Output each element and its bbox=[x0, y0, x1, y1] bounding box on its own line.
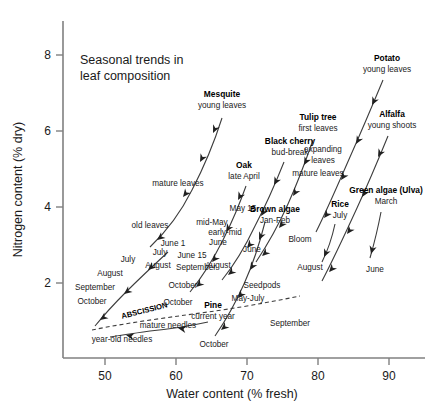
species-name-label: Rice bbox=[331, 199, 349, 209]
series-annotation-label: August bbox=[97, 269, 123, 278]
species-name-label: Black cherry bbox=[265, 136, 316, 146]
arrow-head-icon bbox=[353, 135, 363, 146]
series-annotation-label: October bbox=[199, 340, 228, 349]
species-stage-label: July bbox=[333, 211, 348, 220]
y-tick-label: 2 bbox=[44, 276, 51, 290]
series-annotation-label: early-mid bbox=[208, 228, 242, 237]
species-name-label: Green algae (Ulva) bbox=[349, 185, 423, 195]
species-stage-label: March bbox=[375, 197, 398, 206]
series-annotation-label: October bbox=[163, 298, 192, 307]
series-annotation-label: September bbox=[270, 319, 310, 328]
arrow-head-icon bbox=[368, 245, 377, 255]
x-axis-title: Water content (% fresh) bbox=[166, 387, 298, 401]
series-annotation-label: June bbox=[243, 245, 261, 254]
arrow-head-icon bbox=[375, 148, 385, 158]
abscission-label: ABSCISSION bbox=[120, 300, 168, 320]
y-tick-label: 4 bbox=[44, 200, 51, 214]
series-curve bbox=[322, 224, 335, 262]
series-annotation-label: June bbox=[366, 265, 384, 274]
x-tick-label: 90 bbox=[382, 369, 396, 383]
series-annotation-label: June bbox=[209, 238, 227, 247]
series-annotation-label: May-July bbox=[232, 294, 266, 303]
arrow-head-icon bbox=[271, 176, 281, 186]
arrow-head-icon bbox=[369, 96, 379, 106]
series-annotation-label: August bbox=[145, 261, 171, 270]
x-tick-label: 60 bbox=[169, 369, 183, 383]
series-annotation-label: June 15 bbox=[177, 251, 207, 260]
chart-title-line-2: leaf composition bbox=[80, 69, 170, 83]
arrow-head-icon bbox=[344, 225, 355, 236]
species-name-label: Pine bbox=[204, 300, 222, 310]
series-annotation-label: July bbox=[121, 255, 136, 264]
arrow-head-icon bbox=[301, 156, 311, 166]
species-name-label: Alfalfa bbox=[379, 109, 405, 119]
species-stage-label: young shoots bbox=[368, 121, 417, 130]
species-stage-label: bud-break bbox=[272, 148, 310, 157]
series-annotation-label: June 1 bbox=[161, 239, 186, 248]
series-annotation-label: Bloom bbox=[288, 235, 311, 244]
series-annotation-label: September bbox=[75, 283, 115, 292]
series-annotation-label: year-old needles bbox=[92, 335, 153, 344]
series-annotation-label: mid-May bbox=[196, 218, 228, 227]
species-stage-label: young leaves bbox=[198, 101, 246, 110]
species-stage-label: Jan-Feb bbox=[260, 216, 290, 225]
species-name-label: Oak bbox=[236, 160, 252, 170]
species-stage-label: young leaves bbox=[363, 65, 411, 74]
x-tick-label: 50 bbox=[98, 369, 112, 383]
x-tick-label: 70 bbox=[240, 369, 254, 383]
species-stage-label: late April bbox=[228, 172, 260, 181]
series-annotation-label: mature leaves bbox=[152, 179, 203, 188]
series-annotation-label: October bbox=[168, 281, 197, 290]
species-stage-label: first leaves bbox=[298, 124, 337, 133]
arrow-head-icon bbox=[180, 188, 191, 199]
series-annotation-label: mature leaves bbox=[292, 169, 343, 178]
species-name-label: Mesquite bbox=[204, 89, 241, 99]
y-tick-label: 6 bbox=[44, 124, 51, 138]
series-annotation-label: leaves bbox=[311, 156, 335, 165]
species-name-label: Tulip tree bbox=[299, 112, 336, 122]
series-annotation-label: old leaves bbox=[132, 221, 169, 230]
chart-figure: 24685060708090 mature leavesold leavesmi… bbox=[0, 0, 444, 417]
species-name-label: Brown algae bbox=[250, 204, 300, 214]
series-annotation-label: July bbox=[153, 248, 168, 257]
seasonal-trends-scatter-plot: 24685060708090 mature leavesold leavesmi… bbox=[0, 0, 444, 417]
series-annotation-label: October bbox=[77, 297, 106, 306]
series-labels: Mesquiteyoung leavesOaklate AprilBlack c… bbox=[191, 53, 423, 321]
y-tick-label: 8 bbox=[44, 48, 51, 62]
arrow-head-icon bbox=[321, 248, 331, 258]
series-annotation-label: August bbox=[297, 263, 323, 272]
series-annotation-label: August bbox=[205, 261, 231, 270]
arrow-head-icon bbox=[256, 231, 266, 241]
series-annotation-label: mature needles bbox=[140, 321, 196, 330]
chart-title-line-1: Seasonal trends in bbox=[80, 53, 184, 67]
y-axis-title: Nitrogen content (% dry) bbox=[11, 122, 25, 257]
species-name-label: Potato bbox=[374, 53, 400, 63]
series-annotation-label: expanding bbox=[304, 145, 342, 154]
series-annotation-label: Seedpods bbox=[244, 281, 281, 290]
x-tick-label: 80 bbox=[311, 369, 325, 383]
